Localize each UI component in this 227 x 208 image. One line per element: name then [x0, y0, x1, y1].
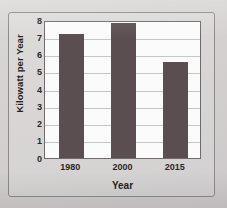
scanned-chart-page: 012345678 Kilowatt per Year 198020002015… — [0, 0, 227, 208]
bar — [163, 62, 188, 158]
y-axis-title: Kilowatt per Year — [14, 14, 25, 134]
bar — [111, 23, 136, 158]
y-axis-tick-label: 0 — [16, 155, 42, 164]
x-axis-tick-label: 2015 — [149, 162, 201, 172]
x-axis-tick-label: 1980 — [44, 162, 96, 172]
x-axis-title: Year — [44, 180, 201, 191]
bar — [59, 34, 84, 158]
plot-area — [44, 21, 201, 159]
x-axis-tick-label: 2000 — [97, 162, 149, 172]
bar-chart: 012345678 Kilowatt per Year 198020002015… — [0, 0, 227, 208]
y-axis-tick-label: 1 — [16, 137, 42, 146]
